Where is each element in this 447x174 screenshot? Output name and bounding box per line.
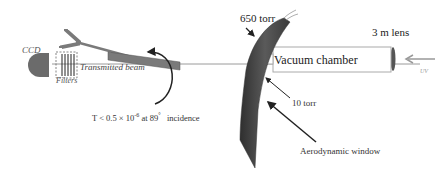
ccd-detector-icon bbox=[28, 53, 49, 77]
uv-label: UV bbox=[420, 68, 428, 74]
pointer-aerodynamic-window-arrow bbox=[268, 102, 316, 142]
filter-stack bbox=[56, 52, 77, 78]
pointer-10-torr-arrow bbox=[266, 78, 290, 98]
pointer-650-torr-arrow bbox=[246, 28, 254, 36]
transmission-suffix: incidence bbox=[161, 113, 200, 123]
aerodynamic-window-shape bbox=[240, 10, 298, 168]
transmission-label: T < 0.5 × 10-6 at 89° incidence bbox=[92, 112, 200, 123]
transmission-prefix: T < 0.5 × 10 bbox=[92, 113, 134, 123]
pressure-10-torr-label: 10 torr bbox=[292, 98, 316, 108]
ccd-label: CCD bbox=[22, 45, 41, 55]
filters-label: Filters bbox=[56, 76, 77, 85]
lens-label: 3 m lens bbox=[372, 26, 409, 38]
uv-arrow-icon bbox=[406, 55, 435, 63]
pressure-650-torr-label: 650 torr bbox=[240, 12, 275, 24]
aerodynamic-window-label: Aerodynamic window bbox=[300, 146, 380, 156]
transmitted-beam-label: Transmitted beam bbox=[80, 62, 145, 72]
vacuum-chamber-label: Vacuum chamber bbox=[274, 53, 358, 68]
transmission-angle: at 89 bbox=[139, 113, 158, 123]
